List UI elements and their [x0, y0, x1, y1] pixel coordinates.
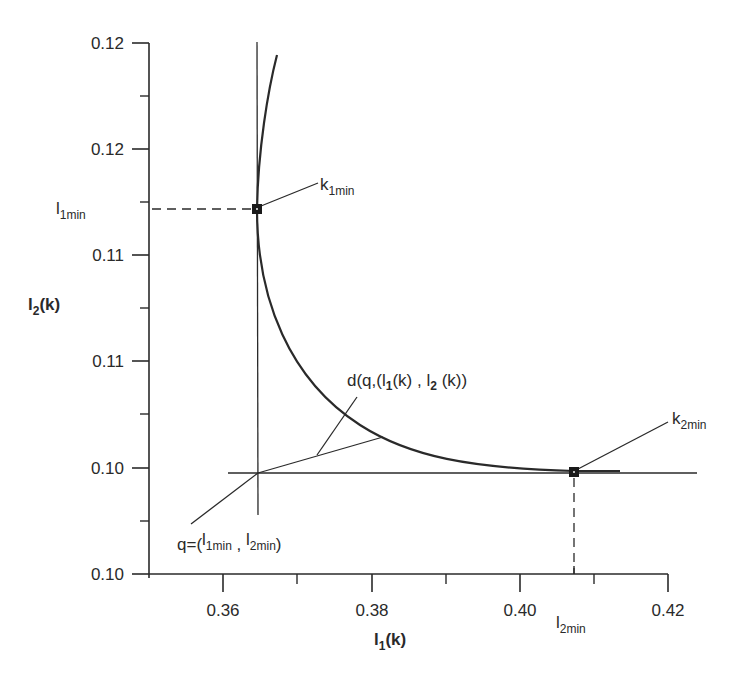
- pareto-chart: 0.12 0.12 0.11 0.11 0.10 0.10 0.36 0.38 …: [0, 0, 749, 682]
- k2min-marker-dot: [573, 471, 575, 473]
- q-leader-line: [191, 473, 258, 524]
- y-tick-label: 0.12: [91, 140, 124, 159]
- q-label: q=(l1min , l2min): [177, 530, 281, 554]
- y-tick-label: 0.10: [91, 459, 124, 478]
- x-tick-label: 0.36: [206, 601, 239, 620]
- k1min-label: k1min: [320, 175, 355, 198]
- y-axis: [132, 43, 149, 578]
- y-tick-labels: 0.12 0.12 0.11 0.11 0.10 0.10: [91, 34, 124, 584]
- k2min-leader-line: [578, 422, 668, 469]
- x-tick-label: 0.38: [355, 601, 388, 620]
- x-tick-labels: 0.36 0.38 0.40 0.42: [206, 601, 684, 620]
- k1min-leader-line: [261, 183, 318, 206]
- l2min-label: l2min: [556, 613, 586, 636]
- x-axis: [149, 566, 668, 592]
- l1min-label: l1min: [56, 199, 86, 222]
- x-axis-title: l1(k): [374, 630, 406, 653]
- y-axis-title: l2(k): [28, 295, 60, 318]
- k2min-label: k2min: [672, 409, 707, 432]
- k1min-marker-dot: [256, 208, 258, 210]
- y-tick-label: 0.12: [91, 34, 124, 53]
- pareto-curve: [257, 55, 620, 471]
- y-tick-label: 0.10: [91, 565, 124, 584]
- y-tick-label: 0.11: [92, 352, 124, 371]
- distance-segment: [258, 437, 383, 473]
- x-tick-label: 0.40: [503, 601, 536, 620]
- distance-label: d(q,(l1(k) , l2 (k)): [347, 371, 467, 393]
- x-tick-label: 0.42: [651, 601, 684, 620]
- y-tick-label: 0.11: [92, 246, 124, 265]
- vertical-reference-line: [257, 42, 258, 515]
